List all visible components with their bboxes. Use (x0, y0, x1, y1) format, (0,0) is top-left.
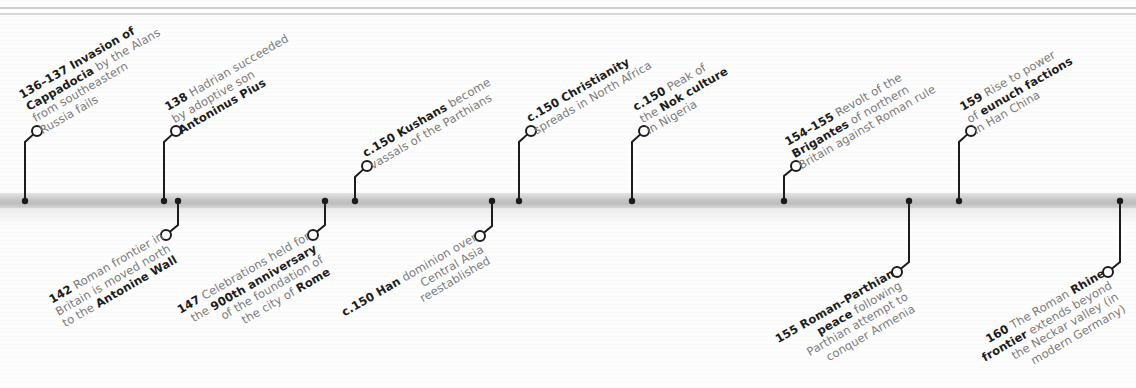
connector-line (484, 201, 492, 233)
event-connector-e154 (781, 161, 801, 204)
connector-line (170, 201, 178, 232)
event-connector-e159 (956, 126, 976, 204)
timeline-dot-icon (629, 198, 635, 204)
connector-line (632, 134, 640, 201)
timeline-dot-icon (22, 198, 28, 204)
event-connector-e147 (308, 198, 328, 240)
timeline-dot-icon (352, 198, 358, 204)
timeline-dot-icon (489, 198, 495, 204)
timeline-dot-icon (906, 198, 912, 204)
connector-line (355, 169, 363, 201)
timeline-dot-icon (322, 198, 328, 204)
connector-line (959, 134, 967, 201)
connector-line (25, 134, 33, 201)
connector-line (1112, 201, 1120, 269)
event-connector-e150n (629, 126, 649, 204)
timeline-dot-icon (956, 198, 962, 204)
connector-line (164, 134, 172, 201)
timeline-dot-icon (516, 198, 522, 204)
timeline-dot-icon (781, 198, 787, 204)
timeline-dot-icon (161, 198, 167, 204)
timeline-dot-icon (1117, 198, 1123, 204)
event-connector-e150c (516, 126, 536, 204)
event-connector-e160 (1103, 198, 1123, 277)
timeline-dot-icon (175, 198, 181, 204)
connector-line (901, 201, 909, 269)
connector-line (317, 201, 325, 232)
event-connector-e138 (161, 126, 181, 204)
event-connector-e150k (352, 161, 372, 204)
event-connector-e136 (22, 126, 42, 204)
connector-line (784, 169, 792, 201)
event-connector-e155 (892, 198, 912, 277)
connector-line (519, 134, 527, 201)
event-connector-e150h (475, 198, 495, 241)
